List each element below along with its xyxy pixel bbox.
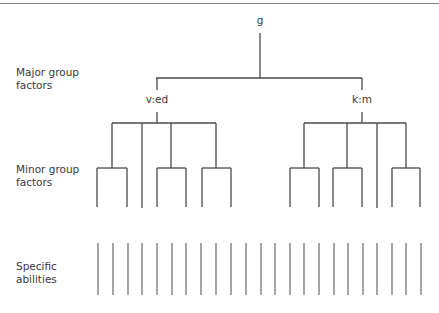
tree-diagram (0, 0, 439, 313)
tree-lines (97, 33, 420, 208)
specific-abilities-lines (98, 243, 421, 295)
